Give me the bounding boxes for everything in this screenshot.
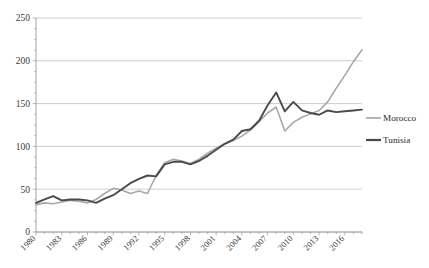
x-tick-label: 1986 bbox=[70, 233, 90, 253]
x-tick-label: 1989 bbox=[95, 233, 114, 252]
x-tick-label: 2004 bbox=[224, 233, 244, 253]
x-tick-label: 1998 bbox=[173, 233, 192, 252]
y-tick-labels: 050100150200250 bbox=[16, 13, 31, 237]
x-tick-label: 1992 bbox=[121, 233, 140, 252]
legend-label-morocco: Morocco bbox=[383, 113, 417, 123]
x-tick-label: 2013 bbox=[301, 233, 320, 252]
x-tick-label: 1983 bbox=[44, 233, 63, 252]
y-tick-label: 200 bbox=[16, 56, 31, 66]
y-tick-label: 150 bbox=[16, 99, 31, 109]
data-series-group bbox=[36, 50, 362, 205]
y-tick-label: 50 bbox=[21, 185, 31, 195]
x-tick-label: 1995 bbox=[147, 233, 166, 252]
series-line-morocco bbox=[36, 50, 362, 205]
x-tick-label: 1980 bbox=[18, 233, 37, 252]
x-tick-label: 2010 bbox=[276, 233, 295, 252]
x-tick-labels: 1980198319861989199219951998200120042007… bbox=[18, 233, 347, 253]
legend: MoroccoTunisia bbox=[366, 113, 417, 145]
y-tick-label: 100 bbox=[16, 142, 31, 152]
line-chart: 050100150200250 198019831986198919921995… bbox=[0, 0, 429, 268]
series-line-tunisia bbox=[36, 92, 362, 202]
legend-label-tunisia: Tunisia bbox=[383, 135, 410, 145]
x-tick-label: 2016 bbox=[327, 233, 347, 253]
y-tick-label: 250 bbox=[16, 13, 31, 23]
y-tickmarks bbox=[33, 18, 36, 232]
x-tick-label: 2001 bbox=[198, 233, 217, 252]
x-tick-label: 2007 bbox=[250, 233, 270, 253]
chart-container: 050100150200250 198019831986198919921995… bbox=[0, 0, 429, 268]
